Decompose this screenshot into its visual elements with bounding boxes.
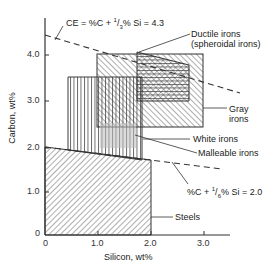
y-axis-label: Carbon, wt% [7,92,17,144]
region-steels [45,147,151,235]
x-tick-1: 1.0 [91,238,104,248]
ce-upper-formula: CE = %C + 1/3% Si = 4.3 [66,15,164,32]
label-steels: Steels [175,212,200,222]
y-tick-0: 0 [35,228,40,238]
label-white-irons: White irons [193,134,238,144]
x-tick-2: 2.0 [144,238,157,248]
y-tick-2: 2.0 [27,142,40,152]
y-tick-3: 3.0 [27,95,40,105]
region-malleable-irons [100,123,136,148]
x-axis-label: Silicon, wt% [104,252,153,262]
y-tick-1: 1.0 [27,186,40,196]
label-gray-irons: Gray irons [229,104,249,124]
label-malleable-irons: Malleable irons [198,148,259,158]
x-tick-0: 0 [43,238,48,248]
ce-lower-formula: %C + 1/6% Si = 2.0 [187,184,262,201]
y-tick-4: 4.0 [27,49,40,59]
label-ductile-irons: Ductile irons (spheroidal irons) [191,29,261,49]
x-tick-3: 3.0 [197,238,210,248]
